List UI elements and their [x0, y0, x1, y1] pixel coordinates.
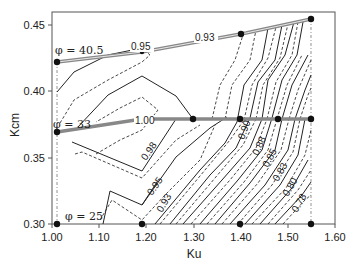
y-tick-label: 0.30	[24, 218, 45, 230]
data-point	[275, 116, 281, 122]
data-point	[238, 31, 244, 37]
data-point	[54, 59, 60, 65]
x-tick-label: 1.30	[183, 231, 204, 243]
x-tick-label: 1.10	[88, 231, 109, 243]
contour-label: 0.93	[195, 32, 215, 43]
y-tick-label: 0.40	[24, 85, 45, 97]
x-tick-label: 1.20	[135, 231, 156, 243]
data-point	[54, 221, 60, 227]
y-tick-label: 0.45	[24, 19, 45, 31]
data-point	[308, 16, 314, 22]
phi-annotation: φ = 40.5	[55, 44, 103, 57]
data-point	[308, 116, 314, 122]
y-axis: 0.45 0.40 0.35 0.30 Kcm	[8, 19, 52, 230]
x-tick-label: 1.40	[230, 231, 251, 243]
data-point	[237, 221, 243, 227]
phi-annotation: φ = 25	[65, 210, 103, 223]
phi-annotation: φ = 33	[53, 118, 91, 131]
contour-label: 0.95	[131, 41, 151, 52]
data-point	[308, 221, 314, 227]
x-axis-label: Ku	[187, 247, 202, 261]
contour-label: 1.00	[135, 115, 155, 126]
x-tick-label: 1.00	[41, 231, 62, 243]
x-axis: 1.00 1.10 1.20 1.30 1.40 1.50 1.60 Ku	[41, 224, 345, 261]
contour-chart: 0.45 0.40 0.35 0.30 Kcm 1.00 1.10 1.20 1…	[0, 0, 355, 269]
data-point	[139, 221, 145, 227]
data-point	[190, 116, 196, 122]
x-tick-label: 1.50	[277, 231, 298, 243]
y-axis-label: Kcm	[8, 113, 22, 137]
x-tick-label: 1.60	[324, 231, 345, 243]
y-tick-label: 0.35	[24, 152, 45, 164]
